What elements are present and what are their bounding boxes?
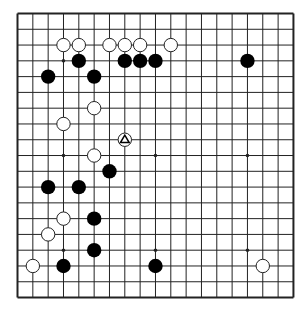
board-intersection[interactable] — [163, 227, 178, 243]
board-intersection[interactable] — [286, 69, 301, 85]
board-intersection[interactable] — [209, 100, 224, 116]
board-intersection[interactable] — [286, 179, 301, 195]
board-intersection[interactable] — [132, 211, 147, 227]
board-intersection[interactable] — [194, 85, 209, 101]
board-intersection[interactable] — [163, 179, 178, 195]
board-intersection[interactable] — [25, 163, 40, 179]
board-intersection[interactable] — [194, 274, 209, 290]
board-intersection[interactable] — [117, 274, 132, 290]
board-intersection[interactable] — [102, 179, 117, 195]
board-intersection[interactable] — [25, 274, 40, 290]
board-intersection[interactable] — [148, 116, 163, 132]
board-intersection[interactable] — [40, 53, 55, 69]
board-intersection[interactable] — [10, 37, 25, 53]
board-intersection[interactable] — [102, 53, 117, 69]
board-intersection[interactable] — [286, 290, 301, 306]
board-intersection[interactable] — [270, 21, 285, 37]
board-intersection[interactable] — [56, 21, 71, 37]
board-intersection[interactable] — [56, 85, 71, 101]
board-intersection[interactable] — [286, 211, 301, 227]
board-intersection[interactable] — [224, 274, 239, 290]
board-intersection[interactable] — [286, 37, 301, 53]
board-intersection[interactable] — [56, 100, 71, 116]
board-intersection[interactable] — [178, 21, 193, 37]
board-intersection[interactable] — [40, 274, 55, 290]
board-intersection[interactable] — [255, 37, 270, 53]
board-intersection[interactable] — [209, 179, 224, 195]
board-intersection[interactable] — [286, 242, 301, 258]
board-intersection[interactable] — [209, 85, 224, 101]
board-intersection[interactable] — [224, 211, 239, 227]
board-intersection[interactable] — [255, 100, 270, 116]
board-intersection[interactable] — [178, 179, 193, 195]
board-intersection[interactable] — [117, 37, 132, 53]
board-intersection[interactable] — [56, 116, 71, 132]
board-intersection[interactable] — [209, 53, 224, 69]
board-intersection[interactable] — [286, 132, 301, 148]
board-intersection[interactable] — [194, 163, 209, 179]
board-intersection[interactable] — [102, 163, 117, 179]
board-intersection[interactable] — [240, 100, 255, 116]
board-intersection[interactable] — [224, 290, 239, 306]
board-intersection[interactable] — [178, 53, 193, 69]
board-intersection[interactable] — [286, 53, 301, 69]
board-intersection[interactable] — [224, 37, 239, 53]
board-intersection[interactable] — [224, 227, 239, 243]
board-intersection[interactable] — [194, 37, 209, 53]
board-intersection[interactable] — [270, 116, 285, 132]
board-intersection[interactable] — [286, 100, 301, 116]
board-intersection[interactable] — [240, 258, 255, 274]
board-intersection[interactable] — [240, 132, 255, 148]
board-intersection[interactable] — [86, 163, 101, 179]
board-intersection[interactable] — [117, 85, 132, 101]
board-intersection[interactable] — [224, 195, 239, 211]
board-intersection[interactable] — [270, 274, 285, 290]
board-intersection[interactable] — [224, 163, 239, 179]
board-intersection[interactable] — [209, 163, 224, 179]
board-intersection[interactable] — [25, 116, 40, 132]
board-intersection[interactable] — [163, 290, 178, 306]
board-intersection[interactable] — [10, 211, 25, 227]
board-intersection[interactable] — [178, 274, 193, 290]
board-intersection[interactable] — [71, 37, 86, 53]
board-intersection[interactable] — [270, 148, 285, 164]
board-intersection[interactable] — [240, 211, 255, 227]
board-intersection[interactable] — [194, 227, 209, 243]
board-intersection[interactable] — [10, 69, 25, 85]
board-intersection[interactable] — [132, 85, 147, 101]
board-intersection[interactable] — [56, 195, 71, 211]
board-intersection[interactable] — [117, 258, 132, 274]
board-intersection[interactable] — [10, 116, 25, 132]
board-intersection[interactable] — [240, 148, 255, 164]
board-intersection[interactable] — [40, 148, 55, 164]
board-intersection[interactable] — [286, 85, 301, 101]
board-intersection[interactable] — [163, 274, 178, 290]
board-intersection[interactable] — [178, 211, 193, 227]
board-intersection[interactable] — [255, 258, 270, 274]
board-intersection[interactable] — [132, 258, 147, 274]
board-intersection[interactable] — [71, 274, 86, 290]
board-intersection[interactable] — [56, 53, 71, 69]
board-intersection[interactable] — [224, 100, 239, 116]
board-intersection[interactable] — [86, 100, 101, 116]
board-intersection[interactable] — [163, 69, 178, 85]
board-intersection[interactable] — [132, 132, 147, 148]
board-intersection[interactable] — [132, 6, 147, 22]
board-intersection[interactable] — [132, 163, 147, 179]
board-intersection[interactable] — [25, 85, 40, 101]
board-intersection[interactable] — [163, 6, 178, 22]
board-intersection[interactable] — [10, 258, 25, 274]
board-intersection[interactable] — [117, 100, 132, 116]
board-intersection[interactable] — [40, 37, 55, 53]
board-intersection[interactable] — [163, 116, 178, 132]
board-intersection[interactable] — [270, 6, 285, 22]
board-intersection[interactable] — [240, 163, 255, 179]
board-intersection[interactable] — [132, 37, 147, 53]
board-intersection[interactable] — [86, 290, 101, 306]
board-intersection[interactable] — [255, 116, 270, 132]
board-intersection[interactable] — [224, 6, 239, 22]
board-intersection[interactable] — [40, 179, 55, 195]
board-intersection[interactable] — [56, 258, 71, 274]
board-intersection[interactable] — [286, 116, 301, 132]
board-intersection[interactable] — [102, 195, 117, 211]
